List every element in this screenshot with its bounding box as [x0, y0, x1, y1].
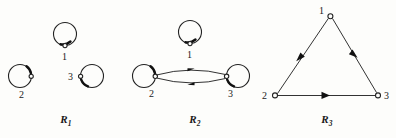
- caption-base-r3: R: [321, 113, 329, 125]
- node-label-2: 2: [149, 88, 154, 99]
- graph-panel-r2: 1 2 3: [128, 0, 262, 138]
- self-loop-node-2: [9, 65, 34, 88]
- node-label-2: 2: [262, 90, 267, 101]
- self-loop-node-1: [179, 21, 202, 46]
- vertex-node-2: [273, 93, 278, 98]
- caption-sub-r2: 2: [197, 119, 201, 128]
- graph-panel-r3: 1 2 3 R3: [258, 0, 396, 138]
- edge-2-to-3: [278, 92, 376, 99]
- node-label-3: 3: [228, 88, 233, 99]
- panel-caption-r2: R2: [128, 113, 262, 128]
- vertex-node-1: [328, 14, 333, 19]
- node-label-1: 1: [187, 49, 192, 60]
- graph-r3-svg: 1 2 3: [258, 0, 396, 112]
- edge-1-to-2: [278, 19, 329, 94]
- vertex-node-3: [376, 93, 381, 98]
- node-label-3: 3: [68, 71, 73, 82]
- self-loop-node-2: [133, 65, 158, 88]
- graph-r1-svg: 1 2 3: [0, 0, 132, 112]
- self-loop-node-3: [79, 65, 104, 88]
- relation-digraph-figure: 1 2 3 R1 1: [0, 0, 396, 138]
- self-loop-node-1: [54, 23, 77, 48]
- graph-r2-svg: 1 2 3: [128, 0, 262, 112]
- self-loop-node-3: [224, 65, 249, 88]
- node-label-2: 2: [19, 89, 24, 100]
- node-label-1: 1: [319, 5, 324, 16]
- edge-1-to-3: [333, 19, 377, 93]
- caption-base-r1: R: [60, 113, 68, 125]
- caption-sub-r1: 1: [68, 119, 72, 128]
- graph-panel-r1: 1 2 3 R1: [0, 0, 132, 138]
- edge-2-to-3: [157, 68, 226, 75]
- caption-sub-r3: 3: [329, 119, 333, 128]
- panel-caption-r3: R3: [258, 113, 396, 128]
- node-label-1: 1: [62, 51, 67, 62]
- caption-base-r2: R: [189, 113, 197, 125]
- edge-3-to-2: [157, 78, 226, 85]
- node-label-3: 3: [384, 90, 389, 101]
- panel-caption-r1: R1: [0, 113, 132, 128]
